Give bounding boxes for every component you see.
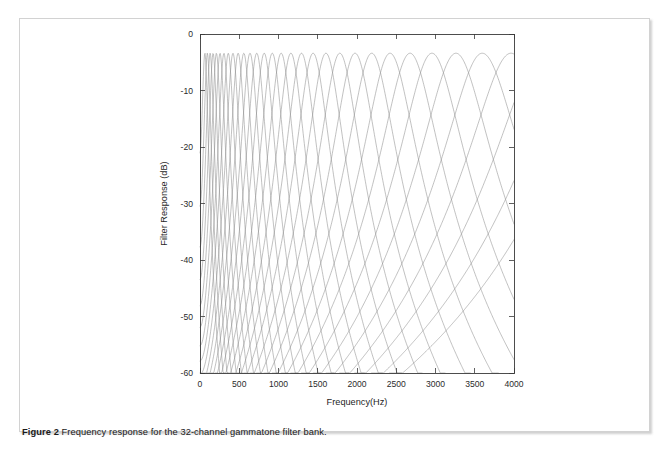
- y-tick-label: 0: [188, 29, 193, 39]
- y-tick-label: -50: [181, 312, 194, 322]
- plot-area: 050010001500200025003000350040000-10-20-…: [20, 19, 651, 433]
- filter-curve: [313, 53, 514, 373]
- y-tick-label: -30: [181, 199, 194, 209]
- filter-curve: [200, 53, 243, 373]
- filter-curve: [227, 53, 334, 373]
- x-tick-label: 1500: [308, 379, 327, 389]
- filter-curve: [291, 53, 514, 373]
- x-axis-label: Frequency(Hz): [327, 397, 388, 407]
- filter-curve: [238, 53, 365, 373]
- filter-curve: [372, 181, 514, 373]
- caption-text: Frequency response for the 32-channel ga…: [62, 427, 327, 437]
- y-tick-label: -40: [181, 255, 194, 265]
- x-tick-label: 4000: [504, 379, 523, 389]
- filter-curve: [211, 53, 287, 373]
- y-tick-label: -10: [181, 86, 194, 96]
- figure-caption: Figure 2 Frequency response for the 32-c…: [22, 427, 652, 439]
- x-tick-label: 3000: [426, 379, 445, 389]
- x-tick-label: 3500: [465, 379, 484, 389]
- filter-curve: [326, 53, 514, 373]
- x-tick-label: 1000: [269, 379, 288, 389]
- caption-label: Figure 2: [22, 427, 59, 437]
- filter-curve: [355, 103, 514, 373]
- filter-curve: [340, 53, 514, 373]
- y-tick-label: -60: [181, 368, 194, 378]
- filter-curve: [200, 53, 228, 373]
- x-tick-label: 0: [198, 379, 203, 389]
- frequency-response-chart: 050010001500200025003000350040000-10-20-…: [20, 19, 651, 433]
- figure-page: 050010001500200025003000350040000-10-20-…: [0, 0, 670, 452]
- filter-curves: [200, 53, 514, 373]
- x-tick-label: 500: [232, 379, 247, 389]
- x-tick-label: 2500: [387, 379, 406, 389]
- x-tick-label: 2000: [347, 379, 366, 389]
- y-axis-label: Filter Response (dB): [159, 161, 169, 245]
- y-tick-label: -20: [181, 142, 194, 152]
- filter-curve: [390, 240, 514, 373]
- filter-curve: [223, 53, 321, 373]
- figure-container: 050010001500200025003000350040000-10-20-…: [19, 18, 650, 432]
- axis-frame: [200, 34, 514, 373]
- chart-axes: [200, 34, 514, 373]
